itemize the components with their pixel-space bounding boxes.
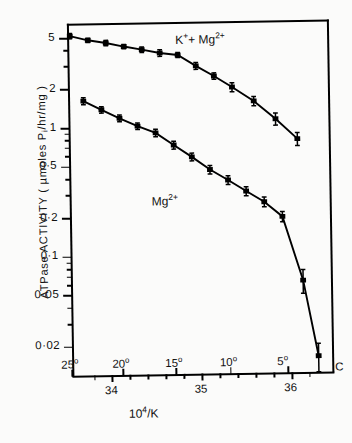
data-point-marker: [279, 214, 285, 219]
data-point-marker: [139, 47, 145, 52]
series-label-k-mg-text: K++ Mg2+: [175, 32, 225, 47]
data-series: [80, 94, 321, 375]
celsius-unit-label: C: [335, 360, 343, 372]
data-point-marker: [251, 98, 257, 103]
series-label-mg-text: Mg2+: [152, 194, 179, 208]
data-curves-svg: [0, 0, 352, 443]
data-point-marker: [98, 107, 104, 112]
y-axis-title-text: ATPase ACTIVITY ( µmoles Pi/hr/mg ): [35, 85, 50, 298]
data-point-marker: [175, 53, 181, 58]
data-point-marker: [243, 189, 249, 194]
data-point-marker: [300, 278, 306, 283]
data-point-marker: [316, 353, 322, 358]
data-point-marker: [80, 99, 86, 104]
data-point-marker: [261, 199, 267, 204]
series-line: [83, 97, 318, 359]
data-point-marker: [225, 178, 231, 183]
x-axis-title-render: 104/K: [129, 406, 159, 420]
data-point-marker: [211, 74, 217, 79]
series-label-mg: Mg2+: [152, 192, 179, 208]
data-point-marker: [171, 143, 177, 148]
data-point-marker: [121, 44, 127, 49]
x-axis-title: 10⁴/K104/K: [129, 404, 159, 420]
data-point-marker: [207, 167, 213, 172]
data-point-marker: [117, 116, 123, 121]
data-point-marker: [273, 116, 279, 121]
data-series: [67, 30, 301, 149]
data-point-marker: [193, 63, 199, 68]
data-point-marker: [85, 38, 91, 43]
arrhenius-plot-figure: 5210·50·20·10·050·02 25o20o15o10o5o 3435…: [0, 0, 352, 443]
data-point-marker: [67, 34, 73, 39]
data-point-marker: [229, 85, 235, 90]
data-point-marker: [153, 130, 159, 135]
series-line: [70, 33, 298, 143]
series-label-k-mg: K++ Mg2+: [175, 30, 225, 47]
data-point-marker: [103, 41, 109, 46]
data-point-marker: [294, 136, 300, 141]
data-point-marker: [157, 51, 163, 56]
data-point-marker: [189, 154, 195, 159]
data-point-marker: [135, 124, 141, 129]
